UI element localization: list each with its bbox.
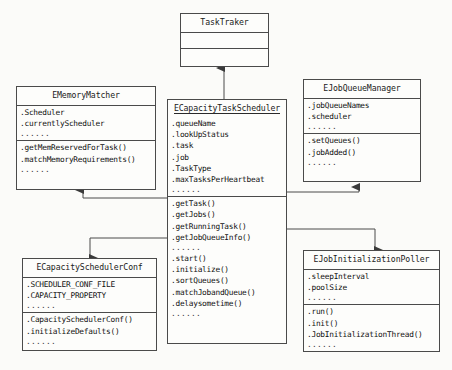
empty-methods <box>181 50 268 63</box>
class-box-ememory-matcher[interactable]: EMemoryMatcher .Scheduler .currentlySche… <box>16 86 156 190</box>
method-item: .init() <box>304 318 439 329</box>
methods-compartment: .CapacitySchedulerConf() .initializeDefa… <box>23 312 156 347</box>
method-item: .getTask() <box>168 198 286 209</box>
attribute-item: .Scheduler <box>17 107 155 118</box>
attributes-compartment: .Scheduler .currentlyScheduler ...... <box>17 105 155 140</box>
attributes-compartment: .SCHEDULER_CONF_FILE .CAPACITY_PROPERTY … <box>23 277 156 312</box>
methods-ellipsis: ...... <box>17 165 155 175</box>
class-box-task-traker[interactable]: TaskTraker <box>180 13 269 67</box>
attribute-item: .task <box>168 140 286 151</box>
class-name-ecapacity-task-scheduler: ECapacityTaskScheduler <box>168 101 286 117</box>
attributes-compartment: .queueName .lookUpStatus .task .job .Tas… <box>168 117 286 196</box>
methods-ellipsis: ...... <box>304 340 439 350</box>
methods-ellipsis: ...... <box>168 243 286 253</box>
class-box-ejob-queue-manager[interactable]: EJobQueueManager .jobQueueNames .schedul… <box>303 79 421 182</box>
method-item: .JobInitializationThread() <box>304 329 439 340</box>
methods-ellipsis: ...... <box>23 337 156 347</box>
method-item: .getJobs() <box>168 209 286 220</box>
attribute-item: .TaskType <box>168 163 286 174</box>
attributes-ellipsis: ...... <box>23 301 156 311</box>
edge-scheduler-to-ememorymatcher <box>83 190 167 198</box>
method-item: .initialize() <box>168 264 286 275</box>
attribute-item: .poolSize <box>304 282 439 293</box>
attributes-compartment: .sleepInterval .poolSize ...... <box>304 269 439 304</box>
methods-ellipsis: ...... <box>304 158 420 168</box>
class-name-ejob-initialization-poller: EJobInitializationPoller <box>304 252 439 268</box>
attributes-ellipsis: ...... <box>17 129 155 139</box>
method-item: .initializeDefaults() <box>23 326 156 337</box>
attributes-compartment <box>181 32 268 48</box>
class-title-compartment: ECapacitySchedulerConf <box>23 259 156 277</box>
class-title-compartment: EJobQueueManager <box>304 80 420 98</box>
method-item: .setQueues() <box>304 135 420 146</box>
edge-scheduler-to-ejobinitializationpoller <box>287 229 375 250</box>
method-item: .matchMemoryRequirements() <box>17 154 155 165</box>
empty-attributes <box>181 34 268 47</box>
attribute-item: .jobQueueNames <box>304 100 420 111</box>
attribute-item: .SCHEDULER_CONF_FILE <box>23 279 156 290</box>
attributes-ellipsis: ...... <box>304 293 439 303</box>
attribute-item: .queueName <box>168 118 286 129</box>
method-item: .getRunningTask() <box>168 221 286 232</box>
class-name-task-traker: TaskTraker <box>181 15 268 31</box>
attribute-item: .scheduler <box>304 111 420 122</box>
attributes-compartment: .jobQueueNames .scheduler ...... <box>304 98 420 133</box>
method-item: .sortQueues() <box>168 275 286 286</box>
class-title-compartment: EMemoryMatcher <box>17 87 155 105</box>
methods-compartment: .setQueues() .jobAdded() ...... <box>304 133 420 168</box>
attribute-item: .maxTasksPerHeartbeat <box>168 174 286 185</box>
method-item: .getJobQueueInfo() <box>168 232 286 243</box>
attributes-ellipsis: ...... <box>168 185 286 195</box>
class-name-ecapacity-scheduler-conf: ECapacitySchedulerConf <box>23 260 156 276</box>
attributes-ellipsis: ...... <box>304 122 420 132</box>
class-box-ecapacity-task-scheduler[interactable]: ECapacityTaskScheduler .queueName .lookU… <box>167 99 287 344</box>
edge-scheduler-to-ecapacityschedulerconf <box>90 238 167 258</box>
class-title-compartment: ECapacityTaskScheduler <box>168 100 286 117</box>
class-box-ecapacity-scheduler-conf[interactable]: ECapacitySchedulerConf .SCHEDULER_CONF_F… <box>22 258 157 351</box>
attribute-item: .lookUpStatus <box>168 129 286 140</box>
method-item: .start() <box>168 253 286 264</box>
attribute-item: .currentlyScheduler <box>17 118 155 129</box>
attribute-item: .CAPACITY_PROPERTY <box>23 290 156 301</box>
method-item: .run() <box>304 306 439 317</box>
class-name-ememory-matcher: EMemoryMatcher <box>17 88 155 104</box>
methods-compartment: .getMemReservedForTask() .matchMemoryReq… <box>17 140 155 175</box>
methods2-ellipsis: ...... <box>168 309 286 319</box>
class-box-ejob-initialization-poller[interactable]: EJobInitializationPoller .sleepInterval … <box>303 250 440 352</box>
edge-scheduler-to-ejobqueuemanager <box>287 187 359 192</box>
attribute-item: .job <box>168 152 286 163</box>
methods-compartment: .getTask() .getJobs() .getRunningTask() … <box>168 196 286 320</box>
methods-compartment <box>181 48 268 64</box>
method-item: .getMemReservedForTask() <box>17 142 155 153</box>
uml-diagram-canvas: TaskTraker EMemoryMatcher .Scheduler .cu… <box>0 0 452 370</box>
method-item: .matchJobandQueue() <box>168 287 286 298</box>
class-title-compartment: TaskTraker <box>181 14 268 32</box>
methods-compartment: .run() .init() .JobInitializationThread(… <box>304 304 439 351</box>
method-item: .CapacitySchedulerConf() <box>23 314 156 325</box>
class-name-ejob-queue-manager: EJobQueueManager <box>304 81 420 97</box>
attribute-item: .sleepInterval <box>304 271 439 282</box>
method-item: .jobAdded() <box>304 147 420 158</box>
method-item: .delaysometime() <box>168 298 286 309</box>
class-title-compartment: EJobInitializationPoller <box>304 251 439 269</box>
